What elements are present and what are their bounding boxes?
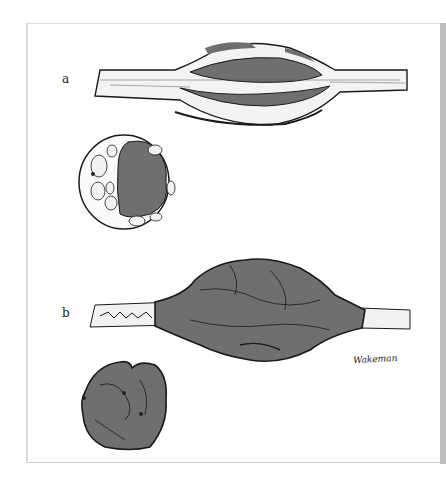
nerve-a-longitudinal (95, 42, 407, 125)
nerve-b-longitudinal (90, 259, 410, 361)
nerve-b-cross-section (82, 362, 166, 450)
illustration (0, 0, 446, 486)
nerve-a-cross-section (79, 135, 175, 229)
